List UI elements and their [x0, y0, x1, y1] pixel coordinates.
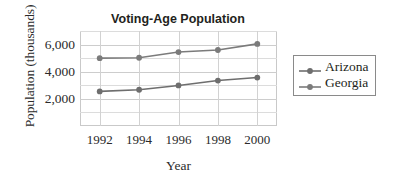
data-series-layer: [80, 31, 277, 126]
y-axis-title: Population (thousands): [22, 0, 38, 146]
y-tick-label: 2,000: [45, 91, 75, 107]
data-point-georgia-1994: [136, 55, 142, 61]
x-tick-label: 1998: [205, 132, 231, 148]
chart-title: Voting-Age Population: [78, 12, 278, 26]
x-axis-title: Year: [80, 158, 277, 174]
legend-item-georgia: Georgia: [299, 75, 368, 91]
x-tick-label: 2000: [244, 132, 270, 148]
legend-swatch-icon: [299, 78, 321, 88]
legend-label: Georgia: [325, 75, 368, 91]
legend-item-arizona: Arizona: [299, 59, 368, 75]
legend-label: Arizona: [325, 59, 368, 75]
legend-swatch-icon: [299, 62, 321, 72]
x-tick-label: 1992: [87, 132, 113, 148]
data-point-arizona-1996: [176, 83, 182, 89]
y-tick-label: 4,000: [45, 64, 75, 80]
data-point-georgia-1992: [97, 55, 103, 61]
data-point-arizona-1998: [215, 78, 221, 84]
plot-area: 2,0004,0006,000 19921994199619982000: [80, 31, 277, 126]
data-point-georgia-1996: [176, 49, 182, 55]
chart-legend: ArizonaGeorgia: [293, 55, 376, 96]
chart-figure: Population (thousands) Voting-Age Popula…: [0, 0, 396, 188]
data-point-arizona-1994: [136, 87, 142, 93]
y-tick-label: 6,000: [45, 37, 75, 53]
data-point-arizona-2000: [254, 75, 260, 81]
data-point-georgia-2000: [254, 41, 260, 47]
data-point-arizona-1992: [97, 88, 103, 94]
data-point-georgia-1998: [215, 47, 221, 53]
x-tick-label: 1994: [126, 132, 152, 148]
x-tick-label: 1996: [166, 132, 192, 148]
